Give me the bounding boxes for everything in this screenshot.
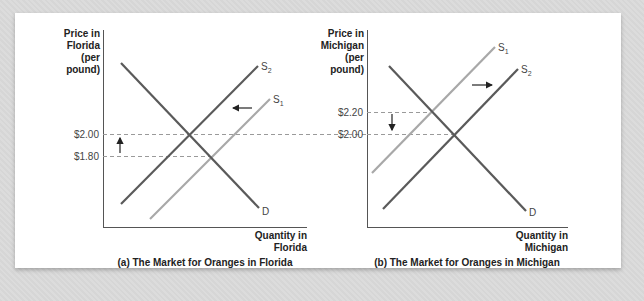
label-d: D <box>529 207 536 218</box>
y-axis-label-line: (per <box>81 52 100 63</box>
chart-michigan: Price in Michigan (per pound) $2.20 $2.0… <box>321 28 568 268</box>
demand-curve <box>389 66 526 211</box>
label-s2: S2 <box>521 64 532 77</box>
tick-label-1-80: $1.80 <box>74 151 99 162</box>
charts-svg: Price in Florida (per pound) $2.00 $1.80… <box>0 0 644 301</box>
y-axis-label-line: pound) <box>66 64 100 75</box>
y-axis-label-line: Michigan <box>321 40 364 51</box>
label-s1: S1 <box>273 94 284 107</box>
x-axis-label-line: Florida <box>274 242 308 253</box>
chart-florida: Price in Florida (per pound) $2.00 $1.80… <box>64 28 367 268</box>
x-axis-label-line: Quantity in <box>255 230 307 241</box>
label-d: D <box>262 206 269 217</box>
y-axis-label-line: Florida <box>67 40 101 51</box>
tick-label-2-00: $2.00 <box>338 129 363 140</box>
supply-curve-s2 <box>383 69 518 209</box>
label-s1: S1 <box>498 42 509 55</box>
x-axis-label-line: Michigan <box>525 242 568 253</box>
chart-caption: (a) The Market for Oranges in Florida <box>117 257 292 268</box>
x-axis-label-line: Quantity in <box>516 230 568 241</box>
supply-curve-s1 <box>372 47 495 173</box>
tick-label-2-00: $2.00 <box>74 129 99 140</box>
chart-caption: (b) The Market for Oranges in Michigan <box>374 257 560 268</box>
tick-label-2-20: $2.20 <box>338 107 363 118</box>
y-axis-label-line: (per <box>345 52 364 63</box>
y-axis-label-line: pound) <box>330 64 364 75</box>
y-axis-label-line: Price in <box>328 28 364 39</box>
label-s2: S2 <box>261 61 272 74</box>
y-axis-label-line: Price in <box>64 28 100 39</box>
